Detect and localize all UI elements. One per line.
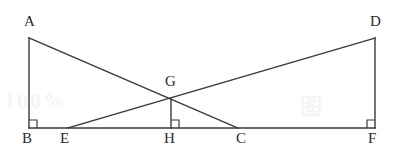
right-angle-marker-H [171, 120, 179, 128]
segment-ED [68, 38, 375, 128]
segment-AC [29, 38, 238, 128]
vertex-label-c: C [236, 131, 246, 146]
vertex-label-b: B [22, 131, 32, 146]
vertex-label-d: D [370, 14, 381, 29]
right-angle-marker-B [29, 120, 37, 128]
right-angle-marker-F [367, 120, 375, 128]
vertex-label-g: G [165, 74, 176, 89]
vertex-label-h: H [164, 131, 175, 146]
vertex-label-f: F [368, 131, 376, 146]
segments-group [29, 38, 375, 128]
vertex-label-a: A [24, 14, 35, 29]
geometry-figure: 100% 图 ADGBEHCF [0, 0, 404, 165]
vertex-label-e: E [60, 131, 69, 146]
